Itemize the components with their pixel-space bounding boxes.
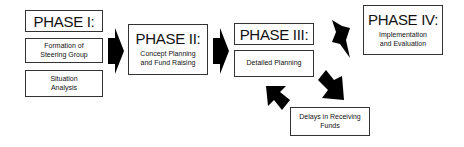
phase-4-box: PHASE IV: Implementation and Evaluation: [363, 5, 443, 55]
arrow-down-right-icon: [318, 70, 346, 102]
delays-label: Delays in Receiving Funds: [299, 113, 361, 131]
phase-1-title: PHASE I:: [34, 14, 95, 29]
phase-1-item-situation: Situation Analysis: [25, 70, 103, 97]
phase-3-item-label: Detailed Planning: [247, 59, 302, 68]
arrow-diagonal-icon: [330, 18, 352, 60]
arrow-right-icon: [108, 28, 124, 74]
phase-4-description: Implementation and Evaluation: [375, 31, 431, 49]
delays-box: Delays in Receiving Funds: [290, 107, 370, 136]
phase-3-item-detailed-planning: Detailed Planning: [234, 50, 314, 77]
phase-1-item-label: Situation Analysis: [44, 75, 84, 93]
phase-4-title: PHASE IV:: [368, 12, 438, 27]
phase-2-box: PHASE II: Concept Planning and Fund Rais…: [128, 24, 208, 75]
phase-1-title-box: PHASE I:: [25, 10, 103, 32]
phase-1-item-label: Formation of Steering Group: [34, 42, 94, 60]
arrow-right-icon: [213, 28, 229, 74]
phase-3-title-box: PHASE III:: [234, 23, 314, 45]
phase-2-description: Concept Planning and Fund Raising: [138, 50, 198, 68]
arrow-up-left-icon: [264, 84, 292, 112]
phase-2-title: PHASE II:: [136, 31, 201, 46]
phase-3-title: PHASE III:: [240, 27, 309, 42]
phase-1-item-formation: Formation of Steering Group: [25, 38, 103, 63]
